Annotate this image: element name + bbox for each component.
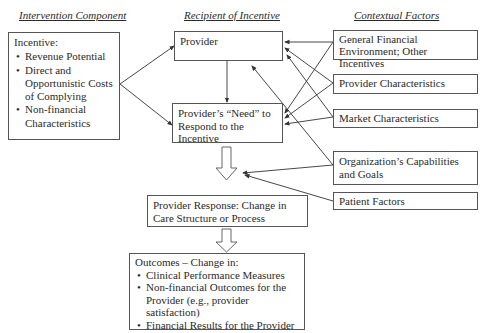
incentive-box: Incentive: Revenue Potential Direct and …	[8, 32, 120, 140]
incentive-list: Revenue Potential Direct and Opportunist…	[14, 50, 114, 130]
outcomes-box: Outcomes – Change in: Clinical Performan…	[129, 253, 305, 330]
outcomes-item: Financial Results for the Provider	[146, 319, 299, 332]
provider-label: Provider	[180, 35, 277, 48]
provider-response-label: Provider Response: Change in Care Struct…	[153, 199, 302, 224]
provider-need-box: Provider’s “Need” to Respond to the Ince…	[172, 103, 283, 143]
context-provider-characteristics-box: Provider Characteristics	[333, 74, 478, 94]
context-label: Organization’s Capabilities and Goals	[339, 155, 472, 181]
context-market-characteristics-box: Market Characteristics	[333, 109, 478, 128]
header-recipient-of-incentive: Recipient of Incentive	[184, 9, 280, 21]
context-label: Market Characteristics	[339, 112, 472, 125]
provider-response-box: Provider Response: Change in Care Struct…	[147, 195, 308, 227]
outcomes-title: Outcomes – Change in:	[135, 256, 299, 269]
outcomes-list: Clinical Performance Measures Non-financ…	[135, 269, 299, 332]
context-label: Patient Factors	[339, 195, 472, 208]
context-organization-capabilities-box: Organization’s Capabilities and Goals	[333, 151, 478, 185]
incentive-title: Incentive:	[14, 36, 114, 49]
context-patient-factors-box: Patient Factors	[333, 192, 478, 210]
header-contextual-factors: Contextual Factors	[354, 9, 439, 21]
provider-box: Provider	[174, 31, 283, 61]
incentive-item: Direct and Opportunistic Costs of Comply…	[25, 64, 114, 104]
incentive-item: Revenue Potential	[25, 50, 114, 63]
header-intervention-component: Intervention Component	[19, 9, 126, 21]
context-label: Provider Characteristics	[339, 77, 472, 90]
incentive-item: Non-financial Characteristics	[25, 103, 114, 130]
provider-need-label: Provider’s “Need” to Respond to the Ince…	[178, 107, 277, 145]
outcomes-item: Non-financial Outcomes for the Provider …	[146, 281, 299, 319]
context-label: General Financial Environment; Other Inc…	[339, 33, 472, 69]
context-general-financial-box: General Financial Environment; Other Inc…	[333, 30, 478, 60]
outcomes-item: Clinical Performance Measures	[146, 269, 299, 282]
